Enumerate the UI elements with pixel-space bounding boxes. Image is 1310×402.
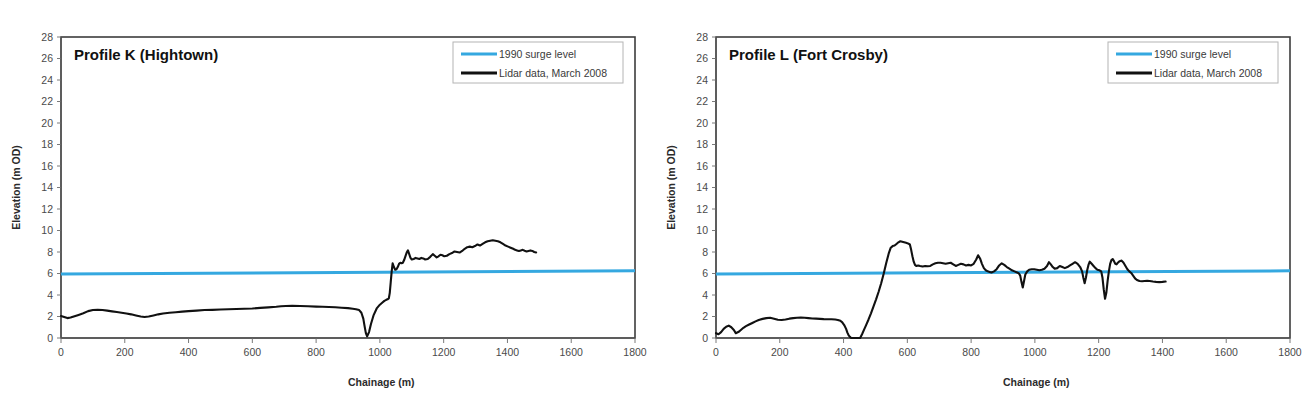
y-tick-label-l-5: 10: [696, 224, 708, 236]
y-tick-label-k-10: 20: [41, 117, 53, 129]
y-tick-label-l-9: 18: [696, 138, 708, 150]
chart-svg-profile-l: 0246810121416182022242628020040060080010…: [655, 0, 1310, 402]
y-tick-label-k-12: 24: [41, 74, 53, 86]
y-tick-label-k-14: 28: [41, 31, 53, 43]
x-tick-label-k-7: 1400: [496, 346, 520, 358]
x-tick-label-l-9: 1800: [1278, 346, 1302, 358]
x-tick-label-l-7: 1400: [1151, 346, 1175, 358]
x-tick-label-l-0: 0: [713, 346, 719, 358]
y-tick-label-l-13: 26: [696, 52, 708, 64]
y-tick-label-k-2: 4: [47, 289, 53, 301]
x-tick-label-k-2: 400: [180, 346, 198, 358]
plot-area-k: 0246810121416182022242628020040060080010…: [10, 31, 647, 388]
legend-label-k-1: Lidar data, March 2008: [499, 67, 607, 79]
y-tick-label-l-6: 12: [696, 203, 708, 215]
y-tick-label-k-4: 8: [47, 246, 53, 258]
y-tick-label-l-7: 14: [696, 181, 708, 193]
y-tick-label-k-0: 0: [47, 332, 53, 344]
x-tick-label-l-8: 1600: [1215, 346, 1239, 358]
y-tick-label-l-12: 24: [696, 74, 708, 86]
chart-panel-profile-l: 0246810121416182022242628020040060080010…: [655, 0, 1310, 402]
y-tick-label-l-3: 6: [702, 267, 708, 279]
y-tick-label-k-5: 10: [41, 224, 53, 236]
y-tick-label-l-10: 20: [696, 117, 708, 129]
chart-title-k: Profile K (Hightown): [74, 46, 218, 63]
x-axis-title-k: Chainage (m): [348, 376, 415, 388]
chart-panel-profile-k: 0246810121416182022242628020040060080010…: [0, 0, 655, 402]
x-tick-label-k-4: 800: [307, 346, 325, 358]
legend-label-k-0: 1990 surge level: [499, 48, 576, 60]
y-tick-label-k-3: 6: [47, 267, 53, 279]
y-tick-label-l-0: 0: [702, 332, 708, 344]
x-tick-label-k-9: 1800: [623, 346, 647, 358]
x-tick-label-l-3: 600: [899, 346, 917, 358]
y-tick-label-k-9: 18: [41, 138, 53, 150]
x-tick-label-k-0: 0: [58, 346, 64, 358]
y-tick-label-l-8: 16: [696, 160, 708, 172]
y-tick-label-k-11: 22: [41, 95, 53, 107]
y-tick-label-k-6: 12: [41, 203, 53, 215]
x-tick-label-l-4: 800: [962, 346, 980, 358]
y-axis-title-k: Elevation (m OD): [10, 145, 22, 230]
legend-label-l-0: 1990 surge level: [1154, 48, 1231, 60]
x-tick-label-l-5: 1000: [1023, 346, 1047, 358]
y-tick-label-k-7: 14: [41, 181, 53, 193]
x-tick-label-k-3: 600: [244, 346, 262, 358]
y-tick-label-k-13: 26: [41, 52, 53, 64]
x-tick-label-k-1: 200: [116, 346, 134, 358]
y-tick-label-l-11: 22: [696, 95, 708, 107]
y-axis-title-l: Elevation (m OD): [665, 145, 677, 230]
y-tick-label-l-4: 8: [702, 246, 708, 258]
x-axis-title-l: Chainage (m): [1003, 376, 1070, 388]
y-tick-label-l-14: 28: [696, 31, 708, 43]
lidar-profile-figure: 0246810121416182022242628020040060080010…: [0, 0, 1310, 402]
y-tick-label-l-1: 2: [702, 310, 708, 322]
x-tick-label-k-6: 1200: [432, 346, 456, 358]
y-tick-label-k-1: 2: [47, 310, 53, 322]
chart-title-l: Profile L (Fort Crosby): [729, 46, 888, 63]
x-tick-label-k-5: 1000: [368, 346, 392, 358]
y-tick-label-l-2: 4: [702, 289, 708, 301]
chart-svg-profile-k: 0246810121416182022242628020040060080010…: [0, 0, 655, 402]
x-tick-label-l-1: 200: [771, 346, 789, 358]
legend-label-l-1: Lidar data, March 2008: [1154, 67, 1262, 79]
x-tick-label-l-6: 1200: [1087, 346, 1111, 358]
y-tick-label-k-8: 16: [41, 160, 53, 172]
x-tick-label-k-8: 1600: [560, 346, 584, 358]
x-tick-label-l-2: 400: [835, 346, 853, 358]
plot-area-l: 0246810121416182022242628020040060080010…: [665, 31, 1302, 388]
